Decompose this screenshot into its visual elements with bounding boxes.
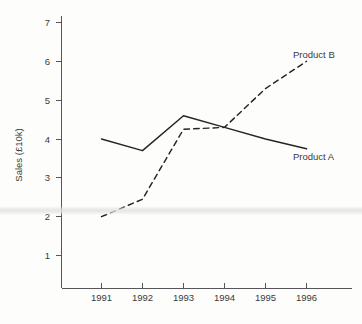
line-chart: 7 6 5 4 3 2 1 Sales (£10k) 1991 1992 199… bbox=[0, 0, 362, 324]
y-tick-label-3: 3 bbox=[45, 172, 50, 183]
x-tick-label-1994: 1994 bbox=[214, 292, 235, 303]
y-tick-label-2: 2 bbox=[45, 211, 50, 222]
y-axis-ticks bbox=[56, 23, 62, 256]
y-tick-label-4: 4 bbox=[45, 134, 50, 145]
y-tick-label-5: 5 bbox=[45, 95, 50, 106]
x-tick-label-1993: 1993 bbox=[173, 292, 194, 303]
x-tick-label-1996: 1996 bbox=[296, 292, 317, 303]
y-axis-title: Sales (£10k) bbox=[13, 128, 24, 181]
series-line-product-b bbox=[102, 61, 307, 216]
x-tick-label-1992: 1992 bbox=[132, 292, 153, 303]
y-tick-label-1: 1 bbox=[45, 250, 50, 261]
series-label-product-b: Product B bbox=[293, 49, 335, 60]
x-tick-label-1995: 1995 bbox=[255, 292, 276, 303]
x-axis-tick-labels: 1991 1992 1993 1994 1995 1996 bbox=[91, 292, 317, 303]
series-line-product-a bbox=[102, 116, 307, 151]
y-tick-label-7: 7 bbox=[45, 17, 50, 28]
x-tick-label-1991: 1991 bbox=[91, 292, 112, 303]
x-axis-ticks bbox=[102, 283, 307, 289]
y-tick-label-6: 6 bbox=[45, 56, 50, 67]
y-axis-tick-labels: 7 6 5 4 3 2 1 bbox=[45, 17, 50, 261]
chart-screenshot: 7 6 5 4 3 2 1 Sales (£10k) 1991 1992 199… bbox=[0, 0, 362, 324]
series-label-product-a: Product A bbox=[293, 151, 335, 162]
